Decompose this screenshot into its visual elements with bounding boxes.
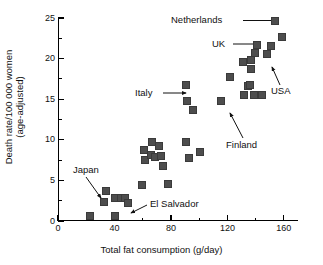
x-tick-label: 120	[207, 224, 247, 233]
data-point	[138, 181, 146, 189]
x-tick-major	[283, 215, 284, 221]
y-tick-major	[58, 99, 64, 100]
annotation-label-usa: USA	[271, 86, 291, 96]
y-axis-title-line-2: (age-adjusted)	[14, 12, 25, 202]
y-tick-label: 15	[45, 95, 55, 104]
x-tick-major	[57, 215, 58, 221]
x-tick-major	[170, 215, 171, 221]
data-point	[251, 49, 259, 57]
data-point	[240, 91, 248, 99]
data-point	[185, 154, 193, 162]
annotation-label-el-salvador: El Salvador	[150, 199, 199, 209]
data-point	[102, 187, 110, 195]
data-point	[159, 162, 167, 170]
annotation-label-finland: Finland	[226, 140, 257, 150]
y-tick-minor	[58, 78, 62, 79]
x-tick-minor	[142, 218, 143, 222]
data-point	[157, 152, 165, 160]
data-point	[189, 106, 197, 114]
x-axis-line	[58, 220, 298, 221]
data-point	[258, 91, 266, 99]
data-point	[100, 198, 108, 206]
data-point	[267, 42, 275, 50]
data-point	[183, 97, 191, 105]
data-point	[247, 65, 255, 73]
y-tick-major	[58, 139, 64, 140]
y-tick-label: 10	[45, 135, 55, 144]
x-tick-label: 80	[151, 224, 191, 233]
y-axis-title: Death rate/100 000 women (age-adjusted)	[3, 12, 25, 202]
annotation-label-netherlands: Netherlands	[171, 15, 222, 25]
y-tick-minor	[58, 160, 62, 161]
data-point	[86, 212, 94, 220]
data-point	[271, 17, 279, 25]
annotation-label-japan: Japan	[73, 165, 99, 175]
x-tick-label: 40	[94, 224, 134, 233]
y-tick-label: 20	[45, 54, 55, 63]
data-point	[263, 50, 271, 58]
y-tick-major	[58, 220, 64, 221]
data-point	[111, 212, 119, 220]
y-tick-major	[58, 17, 64, 18]
data-point	[182, 81, 190, 89]
y-tick-minor	[58, 200, 62, 201]
x-tick-label: 160	[264, 224, 304, 233]
y-tick-minor	[58, 38, 62, 39]
annotation-label-italy: Italy	[135, 88, 152, 98]
data-point	[253, 41, 261, 49]
data-point	[239, 58, 247, 66]
x-tick-minor	[255, 218, 256, 222]
data-point	[217, 97, 225, 105]
y-axis-title-line-1: Death rate/100 000 women	[3, 12, 14, 202]
data-point	[246, 81, 254, 89]
x-tick-label: 0	[38, 224, 78, 233]
y-tick-major	[58, 58, 64, 59]
y-tick-minor	[58, 119, 62, 120]
x-axis-title: Total fat consumption (g/day)	[0, 244, 323, 255]
data-point	[278, 33, 286, 41]
scatter-plot-figure: 0510152025 04080120160 Death rate/100 00…	[0, 0, 323, 265]
annotation-label-uk: UK	[212, 39, 225, 49]
data-point	[164, 180, 172, 188]
y-tick-label: 5	[50, 176, 55, 185]
x-tick-minor	[199, 218, 200, 222]
data-point	[124, 199, 132, 207]
data-point	[196, 148, 204, 156]
data-point	[182, 138, 190, 146]
data-point	[250, 91, 258, 99]
y-tick-label: 25	[45, 14, 55, 23]
x-tick-major	[227, 215, 228, 221]
plot-area: 0510152025 04080120160	[58, 18, 298, 221]
data-point	[155, 142, 163, 150]
y-tick-major	[58, 180, 64, 181]
data-point	[226, 73, 234, 81]
